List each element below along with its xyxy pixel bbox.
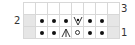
yarn-over-cell: [72, 27, 84, 39]
cell-r3-c7: [96, 3, 108, 15]
purl-cell: [84, 15, 96, 27]
cell-r3-c4: [60, 3, 72, 15]
no-stitch-cell: [108, 27, 120, 39]
double-decrease-cell: [60, 27, 72, 39]
purl-dot-icon: [52, 31, 56, 35]
purl-dot-icon: [64, 19, 68, 23]
no-stitch-cell: [24, 27, 36, 39]
purl-dot-icon: [88, 31, 92, 35]
purl-dot-icon: [52, 19, 56, 23]
knitting-chart: [23, 2, 120, 39]
purl-cell: [96, 15, 108, 27]
purl-dot-icon: [40, 19, 44, 23]
row-number-1: 1: [121, 28, 127, 38]
purl-dot-icon: [100, 19, 104, 23]
purl-cell: [96, 27, 108, 39]
slip-purlwise-cell: [72, 15, 84, 27]
cell-r3-c5: [72, 3, 84, 15]
purl-cell: [84, 27, 96, 39]
cell-r3-c3: [48, 3, 60, 15]
no-stitch-cell: [24, 15, 36, 27]
purl-cell: [36, 27, 48, 39]
yarn-over-icon: [75, 30, 80, 35]
cell-r3-c2: [36, 3, 48, 15]
row-number-2: 2: [14, 16, 20, 26]
cell-r3-c8: [108, 3, 120, 15]
purl-cell: [48, 15, 60, 27]
purl-cell: [36, 15, 48, 27]
purl-dot-icon: [88, 19, 92, 23]
purl-cell: [60, 15, 72, 27]
purl-dot-icon: [40, 31, 44, 35]
cell-r3-c6: [84, 3, 96, 15]
purl-dot-icon: [100, 31, 104, 35]
row-number-3: 3: [121, 4, 127, 14]
cell-r3-c1: [24, 3, 36, 15]
no-stitch-cell: [108, 15, 120, 27]
slip-v-icon: [73, 16, 83, 26]
central-double-decrease-icon: [61, 28, 71, 38]
purl-cell: [48, 27, 60, 39]
